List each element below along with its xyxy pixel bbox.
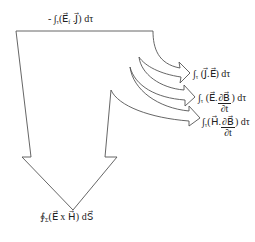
label-work-done-on-charges: - ∫τ(E⃗f .J⃗) dτ [48, 14, 93, 25]
expression-text: ) dτ [235, 116, 250, 127]
expression-text: (H⃗. [207, 116, 221, 127]
expression-text: (E⃗. [203, 92, 217, 103]
fraction: ∂B⃗∂t [218, 93, 232, 114]
expression-text: ) dτ [231, 92, 246, 103]
label-poynting-flux: ∮Σ(E⃗ x H⃗) dS⃗ [40, 212, 93, 223]
expression-text: .J⃗) dτ [70, 13, 93, 24]
label-magnetic-energy-rate: ∫τ(H⃗.∂B⃗∂t) dτ [202, 117, 250, 138]
integral-symbol: - ∫ [48, 13, 57, 24]
label-joule-heating: ∫τ (J⃗.E⃗) dτ [193, 69, 230, 80]
main-arrow-outline [16, 31, 200, 210]
denominator: ∂t [221, 128, 235, 138]
label-electric-energy-rate: ∫τ (E⃗.∂B⃗∂t) dτ [198, 93, 246, 114]
expression-text: (E⃗ x H⃗) dS⃗ [49, 211, 93, 222]
expression-text: (E⃗ [59, 13, 68, 24]
fraction: ∂B⃗∂t [221, 117, 235, 138]
expression-text: (J⃗.E⃗) dτ [198, 68, 230, 79]
denominator: ∂t [218, 104, 232, 114]
